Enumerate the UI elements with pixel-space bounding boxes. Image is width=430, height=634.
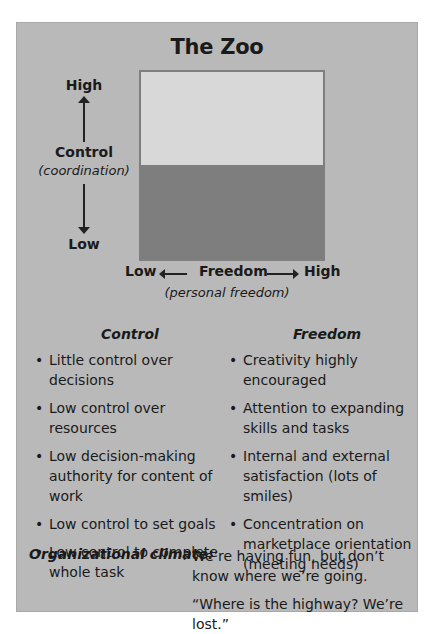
y-axis-line-up bbox=[83, 102, 85, 142]
y-axis-sublabel: (coordination) bbox=[24, 163, 144, 178]
list-item: Attention to expanding skills and tasks bbox=[229, 398, 414, 438]
list-item: Low control to set goals bbox=[35, 514, 225, 534]
list-item: Internal and external satisfaction (lots… bbox=[229, 446, 414, 506]
control-heading: Control bbox=[101, 326, 159, 342]
freedom-heading: Freedom bbox=[293, 326, 361, 342]
x-axis-label: Freedom bbox=[199, 263, 268, 279]
y-axis-label: Control bbox=[34, 144, 134, 160]
arrow-down-icon bbox=[78, 227, 90, 234]
list-item: Low decision-making authority for conten… bbox=[35, 446, 225, 506]
climate-label: Organizational climate: bbox=[29, 546, 214, 562]
y-axis-line-down bbox=[83, 184, 85, 228]
arrow-right-icon bbox=[293, 269, 299, 279]
climate-text: We’re having fun, but don’t know where w… bbox=[192, 546, 407, 634]
quadrant-box bbox=[139, 70, 325, 261]
climate-line: We’re having fun, but don’t know where w… bbox=[192, 546, 407, 586]
y-axis-high-label: High bbox=[54, 77, 114, 93]
x-axis-line-left bbox=[163, 273, 187, 275]
x-axis-low-label: Low bbox=[125, 263, 156, 279]
list-item: Low control over resources bbox=[35, 398, 225, 438]
quadrant-high-control-area bbox=[141, 72, 323, 165]
x-axis: Low Freedom High bbox=[17, 263, 417, 285]
x-axis-sublabel: (personal freedom) bbox=[17, 285, 417, 300]
x-axis-high-label: High bbox=[304, 263, 341, 279]
diagram-title: The Zoo bbox=[17, 35, 417, 59]
x-axis-line-right bbox=[267, 273, 293, 275]
list-item: Little control over decisions bbox=[35, 350, 225, 390]
y-axis-low-label: Low bbox=[54, 236, 114, 252]
climate-quote: “Where is the highway? We’re lost.” bbox=[192, 594, 407, 634]
list-item: Creativity highly encouraged bbox=[229, 350, 414, 390]
zoo-panel: The Zoo High Control (coordination) Low … bbox=[16, 22, 418, 612]
